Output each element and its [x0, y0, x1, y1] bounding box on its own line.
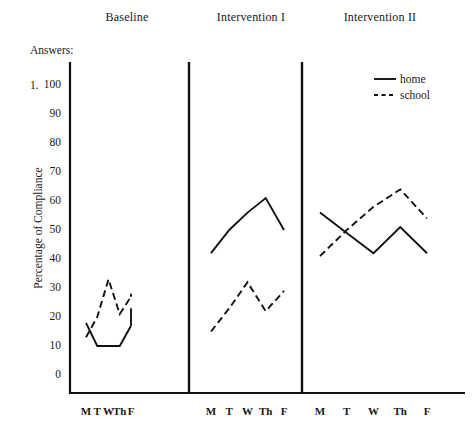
legend-swatches	[374, 79, 396, 95]
series-school-phase-1	[211, 282, 284, 331]
series-school-phase-2	[320, 189, 427, 256]
series-school-phase-0	[86, 279, 131, 337]
phase-separators	[189, 62, 302, 393]
axes-group	[69, 62, 465, 393]
chart-page: Baseline Intervention I Intervention II …	[0, 0, 472, 440]
legend-label-school: school	[400, 89, 430, 101]
series-home-phase-1	[211, 198, 284, 253]
series-home-phase-2	[320, 213, 427, 254]
plot-area	[0, 0, 472, 440]
data-series-group	[86, 189, 427, 346]
legend-label-home: home	[400, 73, 426, 85]
